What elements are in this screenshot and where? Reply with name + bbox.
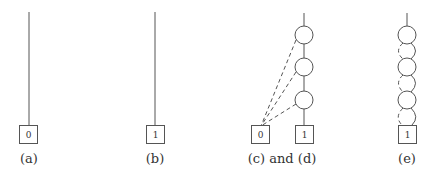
- dashed-arc: [399, 75, 404, 92]
- dashed-arc: [399, 43, 404, 59]
- dashed-edge: [261, 72, 296, 126]
- panel-cd: 0 1 (c) and (d): [248, 13, 317, 166]
- solid-arc: [411, 108, 416, 125]
- solid-arc: [411, 43, 416, 59]
- terminal-label: 1: [405, 130, 411, 140]
- decision-node: [398, 58, 416, 76]
- caption-a: (a): [20, 151, 38, 166]
- dashed-arc: [398, 108, 403, 125]
- decision-node: [295, 58, 313, 76]
- caption-b: (b): [146, 151, 164, 166]
- decision-node: [398, 91, 416, 109]
- solid-arc: [411, 75, 416, 92]
- panel-e: 1 (e): [398, 13, 417, 166]
- panel-a: 0 (a): [20, 12, 38, 166]
- dashed-edge: [261, 40, 296, 126]
- dashed-edge: [261, 104, 296, 126]
- decision-node: [295, 26, 313, 44]
- decision-node: [398, 26, 416, 44]
- terminal-label: 1: [302, 130, 308, 140]
- terminal-label: 0: [258, 130, 264, 140]
- diagram-canvas: 0 (a) 1 (b) 0 1 (c) and (d): [0, 0, 429, 177]
- caption-cd: (c) and (d): [248, 151, 317, 166]
- caption-e: (e): [398, 151, 416, 166]
- terminal-label: 0: [26, 130, 32, 140]
- decision-node: [295, 91, 313, 109]
- panel-b: 1 (b): [146, 12, 165, 166]
- terminal-label: 1: [153, 130, 159, 140]
